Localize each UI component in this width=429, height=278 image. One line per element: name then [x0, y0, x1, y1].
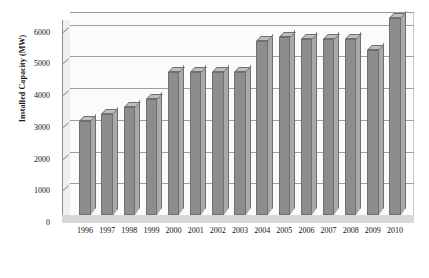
bar-side-face	[157, 92, 162, 215]
bar-side-face	[312, 32, 317, 215]
bar	[124, 107, 136, 215]
bar-front-face	[190, 72, 202, 215]
bar	[190, 72, 202, 215]
bar-front-face	[279, 37, 291, 215]
bar-front-face	[234, 72, 246, 215]
bar	[101, 114, 113, 216]
bar-side-face	[334, 32, 339, 215]
bar	[212, 72, 224, 215]
bar	[279, 37, 291, 215]
bar-front-face	[146, 99, 158, 215]
bar-front-face	[367, 50, 379, 215]
bar-side-face	[91, 114, 96, 215]
bar	[367, 50, 379, 215]
bar-front-face	[101, 114, 113, 216]
y-axis-tick-label: 2000	[6, 155, 50, 164]
bar-front-face	[79, 121, 91, 215]
bar	[146, 99, 158, 215]
x-axis-tick-labels: 1996199719981999200020012002200320042005…	[62, 226, 422, 242]
bar-front-face	[345, 39, 357, 215]
bar-side-face	[268, 33, 273, 215]
bar	[389, 18, 401, 215]
y-axis-tick-label: 6000	[6, 28, 50, 37]
bar	[234, 72, 246, 215]
y-axis-tick-label: 1000	[6, 186, 50, 195]
bar-front-face	[256, 41, 268, 215]
bar-front-face	[168, 72, 180, 215]
bar-side-face	[224, 65, 229, 215]
y-axis-tick-label: 5000	[6, 59, 50, 68]
bar-side-face	[201, 65, 206, 215]
bar-series	[62, 12, 414, 223]
bar-front-face	[389, 18, 401, 215]
bar-side-face	[401, 11, 406, 215]
bar-side-face	[356, 32, 361, 215]
bar	[79, 121, 91, 215]
x-axis-tick-label: 2010	[382, 226, 408, 235]
bar	[345, 39, 357, 215]
bar	[168, 72, 180, 215]
bar	[323, 39, 335, 215]
bar-front-face	[323, 39, 335, 215]
y-axis-tick-labels: 0100020003000400050006000	[0, 0, 62, 278]
bar-chart: Installed Capacity (MW) 0100020003000400…	[0, 0, 429, 278]
plot-area	[62, 12, 414, 223]
bar-side-face	[246, 65, 251, 215]
bar-front-face	[124, 107, 136, 215]
bar	[301, 39, 313, 215]
bar-side-face	[135, 100, 140, 215]
bar-front-face	[212, 72, 224, 215]
bar-side-face	[113, 106, 118, 215]
bar-side-face	[379, 43, 384, 215]
y-axis-tick-label: 0	[6, 218, 50, 227]
bar	[256, 41, 268, 215]
y-axis-tick-label: 3000	[6, 123, 50, 132]
y-axis-tick-label: 4000	[6, 91, 50, 100]
bar-side-face	[179, 65, 184, 215]
bar-side-face	[290, 30, 295, 215]
bar-front-face	[301, 39, 313, 215]
